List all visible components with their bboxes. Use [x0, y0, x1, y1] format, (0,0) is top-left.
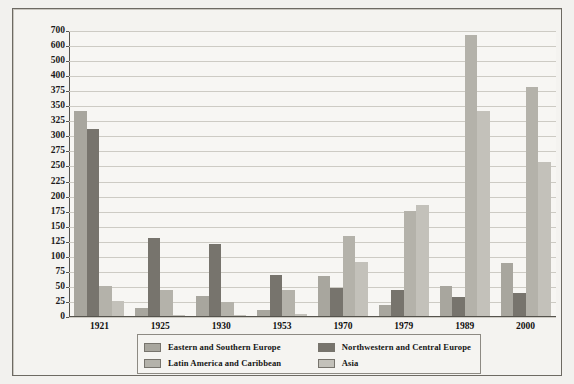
gridline [69, 317, 556, 318]
y-axis-tick-label: 600 [51, 41, 65, 51]
bar [99, 286, 112, 316]
legend-row-2: Latin America and Caribbean Asia [144, 355, 474, 371]
bar-group-1921 [74, 30, 124, 316]
bar [477, 111, 490, 316]
bar [501, 263, 514, 316]
bar [196, 296, 209, 316]
y-axis-tick-label: 175 [51, 207, 65, 217]
screenshot-page: Numbers in thousands 7006005004003753503… [0, 0, 574, 384]
bar [538, 162, 551, 316]
y-axis-tick-label: 125 [51, 237, 65, 247]
y-axis-tick-mark [66, 242, 69, 243]
x-axis-tick-label: 1953 [273, 321, 292, 331]
bar [440, 286, 453, 316]
bar [148, 238, 161, 316]
y-axis-tick-mark [66, 91, 69, 92]
bar [135, 308, 148, 316]
x-axis-tick-label: 1921 [90, 321, 109, 331]
y-axis-tick-mark [66, 272, 69, 273]
bar [282, 290, 295, 316]
bar [404, 211, 417, 316]
legend-row-1: Eastern and Southern Europe Northwestern… [144, 339, 474, 355]
y-axis-tick-mark [66, 151, 69, 152]
bar-group-1989 [440, 30, 490, 316]
legend-swatch-icon [318, 343, 335, 352]
figure-frame: Numbers in thousands 7006005004003753503… [12, 8, 562, 376]
bar [173, 315, 186, 316]
y-axis-tick-mark [66, 136, 69, 137]
y-axis-tick-label: 300 [51, 132, 65, 142]
bar [355, 262, 368, 316]
x-axis-tick-label: 2000 [516, 321, 535, 331]
bar [391, 290, 404, 316]
plot-area: 7006005004003753503253002752502252001751… [69, 31, 556, 317]
bar [74, 111, 87, 316]
y-axis-tick-label: 325 [51, 117, 65, 127]
y-axis-tick-label: 700 [51, 26, 65, 36]
y-axis-line [69, 31, 70, 317]
x-axis-tick-label: 1979 [394, 321, 413, 331]
y-axis-tick-mark [66, 227, 69, 228]
chart-legend: Eastern and Southern Europe Northwestern… [137, 334, 481, 374]
bar [513, 293, 526, 316]
bar [452, 297, 465, 316]
legend-item-eastern-southern-europe: Eastern and Southern Europe [144, 342, 318, 352]
y-axis-tick-label: 25 [56, 297, 66, 307]
bar [379, 305, 392, 316]
bar-group-1925 [135, 30, 185, 316]
bar [87, 129, 100, 316]
y-axis-tick-mark [66, 197, 69, 198]
bar [257, 310, 270, 316]
legend-item-latin-america-caribbean: Latin America and Caribbean [144, 358, 318, 368]
legend-swatch-icon [318, 359, 335, 368]
y-axis-tick-label: 250 [51, 162, 65, 172]
y-axis-tick-mark [66, 31, 69, 32]
y-axis-tick-mark [66, 182, 69, 183]
bar-group-1970 [318, 30, 368, 316]
bar-group-1930 [196, 30, 246, 316]
y-axis-tick-label: 0 [60, 312, 65, 322]
x-axis-tick-label: 1970 [333, 321, 352, 331]
bar [209, 244, 222, 316]
y-axis-tick-label: 225 [51, 177, 65, 187]
bar [221, 302, 234, 316]
legend-label: Latin America and Caribbean [168, 358, 281, 368]
y-axis-tick-label: 100 [51, 252, 65, 262]
bar [112, 301, 125, 316]
bar [416, 205, 429, 316]
y-axis-tick-mark [66, 61, 69, 62]
y-axis-tick-mark [66, 46, 69, 47]
y-axis-tick-label: 75 [56, 267, 66, 277]
y-axis-tick-label: 275 [51, 147, 65, 157]
bar [234, 315, 247, 316]
x-axis-tick-label: 1925 [151, 321, 170, 331]
legend-swatch-icon [144, 343, 161, 352]
bar [526, 87, 539, 316]
y-axis-tick-mark [66, 212, 69, 213]
bar [295, 314, 308, 316]
bar [465, 35, 478, 316]
legend-label: Eastern and Southern Europe [168, 342, 281, 352]
bar [343, 236, 356, 316]
legend-swatch-icon [144, 359, 161, 368]
legend-label: Asia [342, 358, 359, 368]
bar-group-2000 [501, 30, 551, 316]
bar-group-1979 [379, 30, 429, 316]
y-axis-tick-mark [66, 166, 69, 167]
bar [330, 288, 343, 316]
y-axis-tick-mark [66, 317, 69, 318]
x-axis-tick-label: 1989 [455, 321, 474, 331]
bar [318, 276, 331, 316]
legend-label: Northwestern and Central Europe [342, 342, 471, 352]
y-axis-tick-label: 150 [51, 222, 65, 232]
y-axis-tick-mark [66, 121, 69, 122]
legend-item-northwestern-central-europe: Northwestern and Central Europe [318, 342, 474, 352]
bar [160, 290, 173, 316]
y-axis-tick-label: 375 [51, 86, 65, 96]
y-axis-tick-mark [66, 106, 69, 107]
y-axis-tick-label: 500 [51, 56, 65, 66]
y-axis-tick-mark [66, 76, 69, 77]
bar [270, 275, 283, 316]
y-axis-tick-label: 400 [51, 71, 65, 81]
x-axis-tick-label: 1930 [212, 321, 231, 331]
